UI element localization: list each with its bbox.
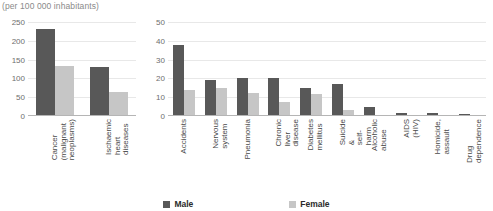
y-axis-tick-label: 0 [161, 112, 165, 121]
bar-male [205, 80, 216, 116]
legend: MaleFemale [0, 199, 493, 209]
bar-group [237, 22, 259, 116]
chart-figure: (per 100 000 inhabitants) 05010015020025… [0, 0, 493, 211]
bar-male [300, 88, 311, 116]
y-axis-tick-label: 200 [12, 36, 25, 45]
x-axis-right [168, 115, 486, 116]
bar-male [268, 78, 279, 116]
chart-panel-left: 050100150200250 [28, 22, 136, 116]
bar-group [427, 22, 449, 116]
y-axis-tick-label: 40 [156, 36, 165, 45]
x-axis-tick-label: Chronic liver disease [275, 119, 301, 147]
x-axis-tick-label: Cancer (malignant neoplasms) [51, 119, 77, 160]
bar-group [332, 22, 354, 116]
legend-item: Male [163, 199, 193, 209]
plot-area-left [28, 22, 136, 116]
y-axis-tick-label: 0 [21, 112, 25, 121]
bar-female [55, 66, 74, 116]
bar-female [311, 94, 322, 116]
x-axis-tick-label: Suicide & self-harm [339, 119, 373, 145]
bar-female [109, 92, 128, 116]
male-swatch [163, 201, 170, 208]
chart-panel-right: 01020304050 [168, 22, 486, 116]
y-axis-tick-label: 30 [156, 55, 165, 64]
x-axis-left [28, 115, 136, 116]
bar-group [396, 22, 418, 116]
x-axis-tick-label: Diabetes mellitus [307, 119, 324, 151]
y-axis-tick-label: 10 [156, 93, 165, 102]
legend-label: Male [174, 199, 193, 209]
legend-label: Female [300, 199, 329, 209]
bar-group [90, 22, 128, 116]
bar-group [459, 22, 481, 116]
bar-female [184, 90, 195, 116]
bar-group [36, 22, 74, 116]
legend-item: Female [289, 199, 329, 209]
x-axis-tick-label: Homicide, assault [434, 119, 451, 155]
bar-male [332, 84, 343, 116]
bar-male [173, 45, 184, 116]
y-axis-tick-label: 100 [12, 74, 25, 83]
bar-group [300, 22, 322, 116]
y-axis-tick-label: 20 [156, 74, 165, 83]
bar-female [216, 88, 227, 116]
bar-male [36, 29, 55, 116]
female-swatch [289, 201, 296, 208]
y-axis-tick-label: 50 [156, 18, 165, 27]
plot-area-right [168, 22, 486, 116]
x-axis-tick-label: Accidents [180, 119, 189, 154]
bar-group [364, 22, 386, 116]
bar-female [248, 93, 259, 117]
bar-group [173, 22, 195, 116]
y-axis-tick-label: 250 [12, 18, 25, 27]
bar-male [90, 67, 109, 116]
y-axis-tick-label: 150 [12, 55, 25, 64]
x-axis-tick-label: AIDS (HIV) [403, 119, 420, 138]
x-axis-tick-label: Ischaemic heart diseases [105, 119, 131, 155]
y-axis-tick-label: 50 [16, 93, 25, 102]
x-axis-tick-label: Drug dependence [466, 119, 483, 163]
x-axis-tick-label: Alcoholic abuse [371, 119, 388, 151]
bar-female [279, 102, 290, 116]
x-axis-tick-label: Pneumonia [244, 119, 253, 159]
x-axis-tick-label: Nervous system [212, 119, 229, 149]
bar-group [205, 22, 227, 116]
bar-male [237, 78, 248, 116]
unit-note: (per 100 000 inhabitants) [2, 1, 99, 11]
bar-group [268, 22, 290, 116]
